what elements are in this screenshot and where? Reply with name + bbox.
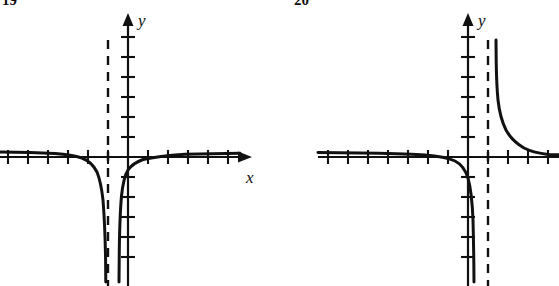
curve-branch-right-right [496, 40, 559, 155]
coordinate-plane-right: y [280, 0, 559, 286]
y-axis-label-right: y [476, 11, 486, 30]
curve-branch-right-left [119, 153, 240, 282]
figure-page: 19 20 [0, 0, 559, 286]
graph-figure-left: x y [0, 0, 280, 286]
x-axis-label-left: x [245, 168, 254, 187]
graph-figure-right: y [280, 0, 559, 286]
y-axis-left [123, 13, 134, 286]
y-axis-arrowhead [123, 13, 134, 26]
y-axis-label-left: y [136, 11, 146, 30]
coordinate-plane-left: x y [0, 0, 280, 286]
y-axis-arrowhead [463, 13, 474, 26]
curve-branch-left-left [0, 152, 106, 282]
y-axis-right [463, 13, 474, 286]
curve-branch-left-right [318, 153, 474, 282]
